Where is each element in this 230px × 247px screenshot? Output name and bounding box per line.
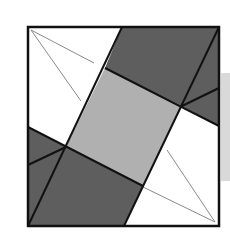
thin-line bbox=[167, 150, 215, 222]
shaded-regions bbox=[28, 27, 219, 226]
thin-line bbox=[31, 30, 81, 101]
thin-line bbox=[31, 30, 94, 63]
thin-line bbox=[143, 187, 215, 222]
square-dissection-diagram bbox=[0, 0, 230, 247]
